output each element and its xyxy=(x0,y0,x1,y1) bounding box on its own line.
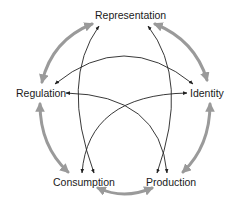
circuit-diagram: Representation Identity Production Consu… xyxy=(0,0,233,207)
inner-arrow-representation-production xyxy=(148,26,172,173)
node-representation: Representation xyxy=(95,9,166,21)
node-identity: Identity xyxy=(190,87,224,99)
outer-arrow-production-consumption xyxy=(98,188,152,194)
node-consumption: Consumption xyxy=(53,176,115,188)
diagram-arrows xyxy=(0,0,233,207)
inner-arrow-regulation-production xyxy=(66,93,167,173)
outer-arrow-consumption-regulation xyxy=(40,104,68,172)
inner-arrow-representation-consumption xyxy=(78,26,99,173)
outer-arrow-identity-production xyxy=(183,104,210,172)
node-regulation: Regulation xyxy=(16,87,66,99)
inner-arrow-regulation-identity xyxy=(55,56,193,84)
node-production: Production xyxy=(146,176,196,188)
